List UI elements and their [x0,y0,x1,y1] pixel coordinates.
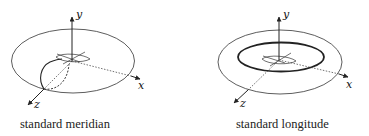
x-axis-label: x [346,79,352,90]
y-axis-label: y [76,9,82,20]
meridian-diagram [0,0,185,136]
z-axis-label: z [240,98,246,109]
longitude-diagram [184,0,369,136]
x-axis [72,61,131,76]
longitude-ellipse [238,43,324,72]
x-axis-label: x [138,80,144,91]
caption-standard-longitude: standard longitude [236,117,329,132]
panel-standard-meridian: y x z standard meridian [0,0,185,136]
panel-standard-longitude: y x z standard longitude [184,0,369,136]
y-axis-label: y [283,9,289,20]
x-axis-tip [339,74,348,77]
z-axis-inner [248,60,279,90]
caption-standard-meridian: standard meridian [20,117,110,132]
origin-glyph [56,52,90,64]
z-axis-inner [44,61,72,89]
z-axis-label: z [34,99,40,110]
disk-ellipse [218,30,342,94]
